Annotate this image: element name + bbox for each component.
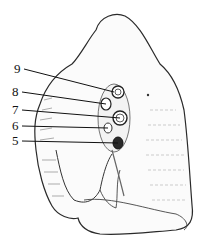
dot-mark xyxy=(147,94,149,96)
label-5: 5 xyxy=(12,134,19,147)
anatomical-illustration: 9 8 7 6 5 xyxy=(0,0,211,250)
lung-drawing xyxy=(0,0,211,250)
label-9: 9 xyxy=(14,62,21,75)
label-6: 6 xyxy=(12,119,19,132)
label-8: 8 xyxy=(12,85,19,98)
label-7: 7 xyxy=(12,103,19,116)
